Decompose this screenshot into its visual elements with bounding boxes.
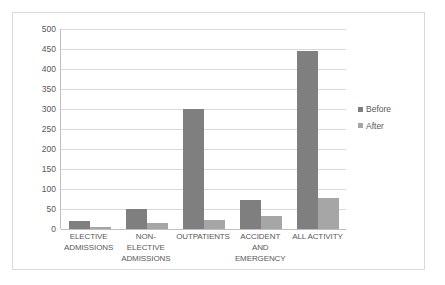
legend-item-after[interactable]: After	[358, 122, 391, 131]
y-axis-tick-250: 250	[42, 125, 56, 134]
y-axis-tick-50: 50	[47, 205, 56, 214]
bar-group	[289, 29, 346, 229]
category-label: OUTPATIENTS	[174, 232, 231, 264]
category-label: NON-ELECTIVEADMISSIONS	[117, 232, 174, 264]
bar-before[interactable]	[183, 109, 204, 229]
bar-after[interactable]	[318, 198, 339, 229]
bar-after[interactable]	[204, 220, 225, 229]
y-axis-tick-100: 100	[42, 185, 56, 194]
legend-swatch-before-icon	[358, 107, 363, 112]
bar-before[interactable]	[69, 221, 90, 229]
y-axis-tick-450: 450	[42, 45, 56, 54]
bar-before[interactable]	[126, 209, 147, 229]
legend-swatch-after-icon	[358, 123, 363, 128]
bar-before[interactable]	[240, 200, 261, 229]
bar-group	[61, 29, 118, 229]
y-axis-tick-500: 500	[42, 25, 56, 34]
bar-group	[175, 29, 232, 229]
bar-after[interactable]	[147, 223, 168, 229]
bar-group	[118, 29, 175, 229]
bar-before[interactable]	[297, 51, 318, 229]
y-axis-tick-300: 300	[42, 105, 56, 114]
category-label: ACCIDENT ANDEMERGENCY	[232, 232, 289, 264]
y-axis-tick-0: 0	[51, 225, 56, 234]
legend-item-before[interactable]: Before	[358, 105, 391, 114]
bar-group	[232, 29, 289, 229]
bars-layer	[61, 29, 346, 229]
plot-area: 500450400350300250200150100500	[60, 29, 346, 229]
category-label: ELECTIVEADMISSIONS	[60, 232, 117, 264]
y-axis-tick-400: 400	[42, 65, 56, 74]
bar-chart-figure: 500450400350300250200150100500 ELECTIVEA…	[12, 12, 425, 270]
y-axis-tick-350: 350	[42, 85, 56, 94]
category-axis: ELECTIVEADMISSIONSNON-ELECTIVEADMISSIONS…	[60, 232, 346, 264]
y-axis-tick-150: 150	[42, 165, 56, 174]
gridline-0	[61, 229, 346, 230]
chart-legend: Before After	[358, 105, 391, 130]
y-axis-tick-200: 200	[42, 145, 56, 154]
legend-label-after: After	[366, 122, 384, 131]
bar-after[interactable]	[261, 216, 282, 229]
legend-label-before: Before	[366, 105, 391, 114]
category-label: ALL ACTIVITY	[289, 232, 346, 264]
bar-after[interactable]	[90, 227, 111, 229]
